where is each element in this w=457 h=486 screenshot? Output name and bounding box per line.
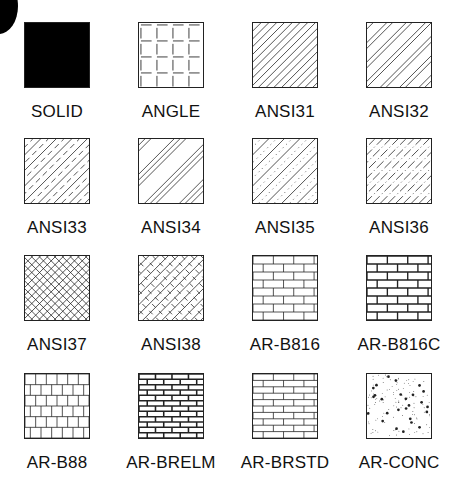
diag-dashdot-hatch-icon	[367, 139, 431, 203]
pattern-label: AR-B816C	[342, 335, 456, 355]
crosshatch-hatch-icon	[25, 256, 89, 320]
brick-std-hatch-icon	[253, 374, 317, 438]
hatch-swatch	[138, 255, 204, 321]
hatch-swatch	[24, 255, 90, 321]
pattern-ar-brstd: AR-BRSTD	[228, 373, 342, 473]
pattern-label: AR-CONC	[342, 453, 456, 473]
hatch-swatch	[138, 138, 204, 204]
pattern-ansi38: ANSI38	[114, 255, 228, 355]
pattern-label: ANSI34	[114, 218, 228, 238]
hatch-swatch	[252, 22, 318, 88]
pattern-ar-brelm: AR-BRELM	[114, 373, 228, 473]
pattern-label: ANSI37	[0, 335, 114, 355]
pattern-label: AR-B88	[0, 453, 114, 473]
pattern-ansi36: ANSI36	[342, 138, 456, 238]
pattern-ansi37: ANSI37	[0, 255, 114, 355]
brick-small-hatch-icon	[25, 374, 89, 438]
hatch-swatch	[252, 255, 318, 321]
pattern-label: ANGLE	[114, 102, 228, 122]
crosshatch-dash-hatch-icon	[139, 256, 203, 320]
pattern-ar-conc: AR-CONC	[342, 373, 456, 473]
hatch-swatch	[24, 138, 90, 204]
diag-triple-hatch-icon	[139, 139, 203, 203]
pattern-solid: SOLID	[0, 22, 114, 122]
pattern-ansi33: ANSI33	[0, 138, 114, 238]
pattern-ansi34: ANSI34	[114, 138, 228, 238]
pattern-ar-b816c: AR-B816C	[342, 255, 456, 355]
pattern-label: ANSI32	[342, 102, 456, 122]
pattern-ar-b88: AR-B88	[0, 373, 114, 473]
diag-pairs-hatch-icon	[367, 23, 431, 87]
pattern-ar-b816: AR-B816	[228, 255, 342, 355]
concrete-hatch-icon	[367, 374, 431, 438]
pattern-label: ANSI33	[0, 218, 114, 238]
hatch-swatch	[366, 255, 432, 321]
angle-hatch-icon	[139, 23, 203, 87]
hatch-swatch	[366, 373, 432, 439]
diag-dot-hatch-icon	[253, 139, 317, 203]
hatch-swatch	[366, 22, 432, 88]
hatch-swatch	[24, 22, 90, 88]
hatch-swatch	[252, 373, 318, 439]
pattern-label: ANSI38	[114, 335, 228, 355]
brick-bold-hatch-icon	[367, 256, 431, 320]
brick-hatch-icon	[253, 256, 317, 320]
hatch-swatch	[24, 373, 90, 439]
hatch-swatch	[252, 138, 318, 204]
pattern-label: ANSI31	[228, 102, 342, 122]
diag-hatch-icon	[253, 23, 317, 87]
pattern-angle: ANGLE	[114, 22, 228, 122]
hatch-swatch	[366, 138, 432, 204]
pattern-label: ANSI35	[228, 218, 342, 238]
pattern-label: ANSI36	[342, 218, 456, 238]
pattern-label: AR-BRELM	[114, 453, 228, 473]
pattern-label: SOLID	[0, 102, 114, 122]
pattern-label: AR-BRSTD	[228, 453, 342, 473]
hatch-swatch	[138, 373, 204, 439]
solid-hatch-icon	[25, 23, 89, 87]
pattern-ansi32: ANSI32	[342, 22, 456, 122]
pattern-ansi35: ANSI35	[228, 138, 342, 238]
brick-elm-hatch-icon	[139, 374, 203, 438]
pattern-ansi31: ANSI31	[228, 22, 342, 122]
hatch-swatch	[138, 22, 204, 88]
diag-dash-hatch-icon	[25, 139, 89, 203]
pattern-label: AR-B816	[228, 335, 342, 355]
